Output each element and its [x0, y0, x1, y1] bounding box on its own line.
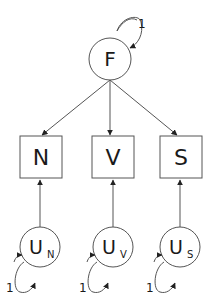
svg-text:N: N — [33, 145, 49, 170]
observed-node-s: S — [160, 136, 202, 178]
svg-text:U: U — [102, 236, 116, 258]
svg-text:U: U — [29, 236, 43, 258]
unique-node-v: U V 1 — [79, 227, 133, 295]
observed-node-v: V — [92, 136, 134, 178]
sem-diagram: 1 F N V S U N 1 U V — [0, 0, 214, 301]
svg-text:S: S — [187, 249, 193, 260]
svg-text:S: S — [174, 145, 188, 170]
factor-node: F — [89, 38, 131, 80]
svg-text:U: U — [169, 236, 183, 258]
observed-node-n: N — [20, 136, 62, 178]
unique-node-n: U N 1 — [6, 227, 60, 295]
svg-text:N: N — [47, 249, 54, 260]
svg-text:V: V — [105, 145, 120, 170]
svg-text:1: 1 — [6, 281, 14, 295]
factor-variance-label: 1 — [138, 17, 146, 31]
svg-text:V: V — [120, 249, 127, 260]
factor-label: F — [104, 47, 116, 71]
svg-text:1: 1 — [79, 281, 87, 295]
unique-node-s: U S 1 — [146, 227, 200, 295]
svg-text:1: 1 — [146, 281, 154, 295]
unique-paths — [40, 180, 180, 227]
factor-loadings — [42, 80, 177, 135]
